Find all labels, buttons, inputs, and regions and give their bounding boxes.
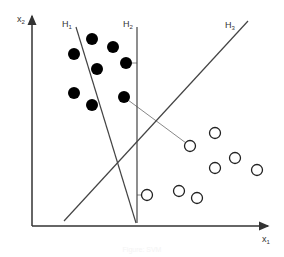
hyperplane-h1 <box>76 27 136 223</box>
h3-label: H3 <box>225 20 236 31</box>
filled-point <box>68 87 80 99</box>
filled-point <box>107 41 119 53</box>
caption: Figure: SVM <box>123 246 162 254</box>
y-axis-label: x2 <box>17 14 26 25</box>
open-point <box>192 193 203 204</box>
open-point <box>142 190 153 201</box>
open-point <box>252 165 263 176</box>
x-axis-label: x1 <box>262 234 271 245</box>
hyperplanes <box>64 21 248 223</box>
open-point <box>230 153 241 164</box>
class-open-points <box>142 128 263 204</box>
filled-point <box>86 99 98 111</box>
hyperplane-h3 <box>64 21 248 221</box>
h1-label: H1 <box>62 19 73 30</box>
class-filled-points <box>68 33 132 111</box>
filled-point <box>118 91 130 103</box>
filled-point <box>91 63 103 75</box>
open-point <box>174 186 185 197</box>
filled-point <box>86 33 98 45</box>
open-point <box>185 141 196 152</box>
filled-point <box>120 57 132 69</box>
svm-diagram: x2 x1 H1 H2 H3 Figure: SVM <box>0 0 284 257</box>
open-point <box>210 128 221 139</box>
h2-label: H2 <box>123 19 134 30</box>
filled-point <box>68 48 80 60</box>
open-point <box>210 163 221 174</box>
